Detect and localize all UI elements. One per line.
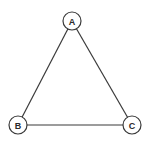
- node-c: C: [123, 116, 141, 134]
- node-b-label: B: [15, 121, 22, 131]
- edge-a-c: [72, 21, 132, 125]
- edge-a-b: [18, 21, 72, 125]
- triangle-graph: A B C: [0, 0, 150, 143]
- node-a-label: A: [69, 17, 76, 27]
- node-c-label: C: [129, 121, 136, 131]
- node-a: A: [63, 12, 81, 30]
- node-b: B: [9, 116, 27, 134]
